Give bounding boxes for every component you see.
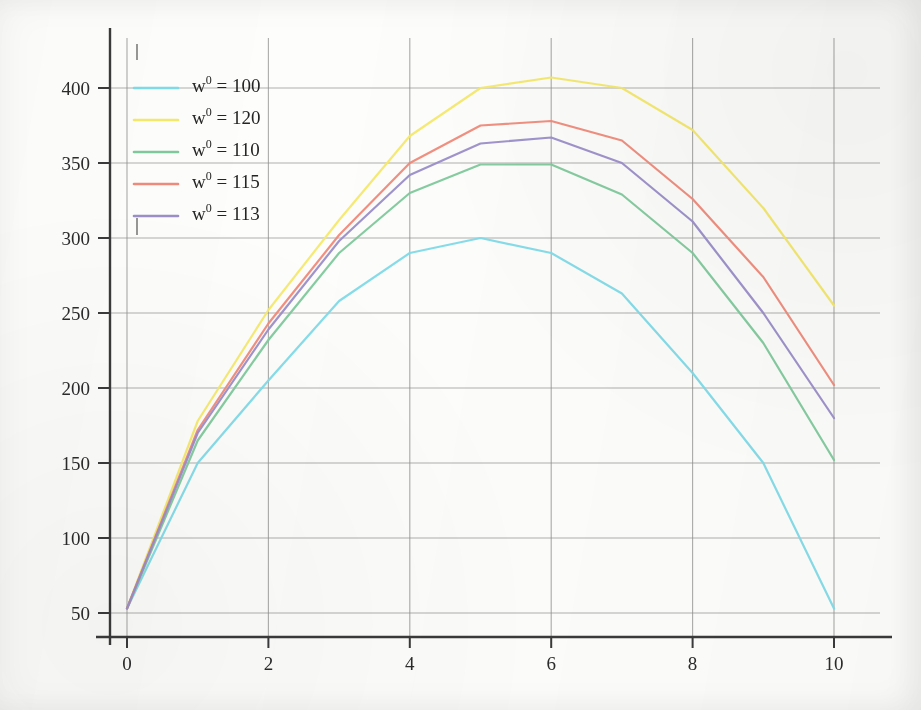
y-axis-tick-label: 150 <box>62 453 91 474</box>
y-axis-tick-label: 100 <box>62 528 91 549</box>
x-axis-tick-labels: 0246810 <box>122 653 843 674</box>
legend-label-3: w0 = 115 <box>192 169 260 193</box>
x-axis-tick-label: 2 <box>264 653 274 674</box>
y-axis-tick-label: 200 <box>62 378 91 399</box>
x-axis-tick-label: 8 <box>688 653 698 674</box>
y-axis-tick-label: 350 <box>62 153 91 174</box>
y-axis-tick-label: 250 <box>62 303 91 324</box>
data-series-line-2 <box>127 165 834 609</box>
line-chart: 50100150200250300350400 0246810 w0 = 100… <box>0 0 921 710</box>
y-axis-tick-label: 400 <box>62 78 91 99</box>
chart-legend: w0 = 100w0 = 120w0 = 110w0 = 115w0 = 113 <box>134 44 260 235</box>
data-series-line-0 <box>127 238 834 609</box>
legend-label-4: w0 = 113 <box>192 201 260 225</box>
y-axis-tick-label: 300 <box>62 228 91 249</box>
y-axis-tick-labels: 50100150200250300350400 <box>62 78 91 624</box>
legend-label-0: w0 = 100 <box>192 73 260 97</box>
y-axis-tick-label: 50 <box>71 603 90 624</box>
legend-label-1: w0 = 120 <box>192 105 260 129</box>
x-axis-tick-label: 0 <box>122 653 132 674</box>
legend-label-2: w0 = 110 <box>192 137 260 161</box>
x-axis-tick-label: 6 <box>546 653 556 674</box>
x-axis-tick-label: 10 <box>825 653 844 674</box>
chart-canvas: 50100150200250300350400 0246810 w0 = 100… <box>0 0 921 710</box>
x-axis-tick-label: 4 <box>405 653 415 674</box>
